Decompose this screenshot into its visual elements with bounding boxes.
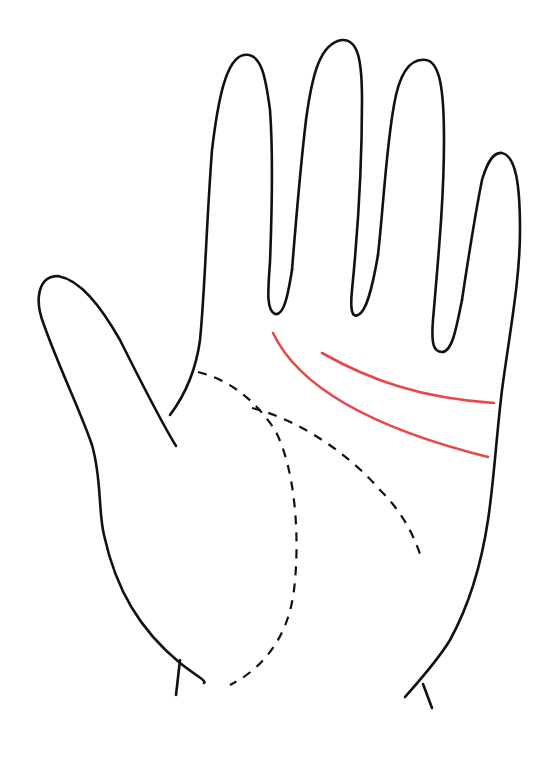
palm-diagram [0,0,555,759]
middle-finger [292,40,378,316]
ring-finger [378,60,462,352]
life-line [198,372,297,685]
highlighted-lines [273,333,494,457]
index-finger [170,55,292,415]
thumb-outer-edge [39,276,205,683]
dashed-lines [198,372,421,685]
heart-line [322,353,494,403]
hand-outline [39,40,520,708]
little-finger-and-right-edge [405,153,520,697]
head-line [273,333,488,457]
right-wrist-tick [423,684,432,708]
hand-illustration [0,0,555,759]
left-wrist-tick [176,660,180,695]
fate-line [252,408,421,557]
